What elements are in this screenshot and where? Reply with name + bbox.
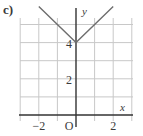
axes: [19, 8, 133, 127]
y-tick-label: 4: [66, 37, 72, 51]
x-tick-label: −2: [32, 119, 45, 133]
x-axis-label: x: [119, 101, 125, 113]
y-axis-label: y: [81, 5, 87, 17]
graph-figure: −2O224 c) y x: [0, 0, 143, 136]
panel-label: c): [3, 2, 13, 17]
x-tick-label: O: [65, 119, 74, 133]
y-tick-label: 2: [66, 73, 72, 87]
graph-svg: −2O224 c) y x: [0, 0, 143, 136]
tick-labels: −2O224: [32, 37, 116, 133]
x-tick-label: 2: [110, 119, 116, 133]
